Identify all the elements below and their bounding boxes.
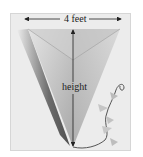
tail-bow xyxy=(98,104,108,112)
tail-bow xyxy=(110,138,118,146)
tail-bow xyxy=(110,92,118,100)
width-label: 4 feet xyxy=(62,14,89,24)
height-label: height xyxy=(62,82,87,92)
tail-bow xyxy=(106,116,114,124)
